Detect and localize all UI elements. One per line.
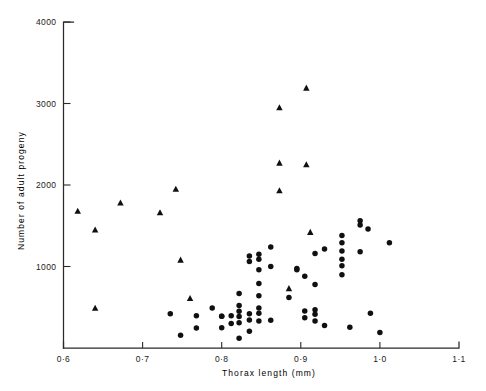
scatter-plot-figure: 10002000300040000·60·70·80·91·01·1 Numbe… (0, 0, 486, 391)
data-point-triangle (286, 285, 292, 291)
data-point-triangle (117, 200, 123, 206)
data-point-circle (209, 305, 215, 311)
data-point-circle (322, 246, 328, 252)
data-point-circle (339, 256, 345, 262)
data-point-triangle (303, 161, 309, 167)
data-point-circle (387, 240, 393, 246)
data-point-triangle (276, 187, 282, 193)
data-point-circle (236, 314, 242, 320)
data-point-circle (247, 311, 253, 317)
data-point-circle (219, 325, 225, 331)
data-point-circle (339, 233, 345, 239)
y-tick-label: 1000 (36, 262, 57, 272)
data-point-circle (247, 259, 253, 265)
data-point-triangle (92, 226, 98, 232)
data-point-circle (247, 253, 253, 259)
data-point-circle (294, 267, 300, 273)
data-point-circle (368, 311, 374, 317)
x-tick-label: 1·0 (373, 354, 387, 364)
data-point-circle (256, 281, 262, 287)
data-point-circle (194, 313, 200, 319)
y-tick-label: 3000 (36, 99, 57, 109)
data-point-circle (357, 249, 363, 255)
x-tick-label: 0·6 (57, 354, 71, 364)
data-point-triangle (187, 295, 193, 301)
data-point-triangle (92, 305, 98, 311)
data-point-circle (339, 248, 345, 254)
data-point-triangle (276, 104, 282, 110)
x-axis-spine (64, 342, 460, 348)
data-point-triangle (303, 85, 309, 91)
data-point-circle (256, 305, 262, 311)
x-tick-label: 0·9 (294, 354, 308, 364)
data-point-circle (256, 256, 262, 262)
x-tick-label: 1·1 (452, 354, 466, 364)
data-point-triangle (157, 209, 163, 215)
data-point-circle (236, 320, 242, 326)
data-point-circle (312, 282, 318, 288)
data-point-circle (256, 267, 262, 273)
data-point-circle (247, 317, 253, 323)
data-point-circle (312, 251, 318, 257)
data-point-circle (256, 311, 262, 317)
data-point-circle (312, 318, 318, 324)
data-point-circle (247, 329, 253, 335)
data-point-circle (236, 291, 242, 297)
data-point-circle (312, 311, 318, 317)
data-point-circle (322, 323, 328, 329)
data-point-circle (339, 240, 345, 246)
data-point-circle (178, 333, 184, 339)
data-point-circle (302, 274, 308, 280)
data-point-circle (228, 321, 234, 327)
data-point-circle (168, 311, 174, 317)
data-point-circle (194, 325, 200, 331)
y-tick-label: 4000 (36, 17, 57, 27)
data-point-circle (236, 303, 242, 309)
data-point-circle (377, 330, 383, 336)
data-point-circle (302, 315, 308, 321)
series-circle-group (168, 218, 393, 341)
data-point-circle (256, 318, 262, 324)
data-point-circle (339, 263, 345, 269)
data-point-circle (268, 244, 274, 250)
y-tick-label: 2000 (36, 180, 57, 190)
data-point-circle (347, 324, 353, 330)
series-triangle-group (75, 85, 314, 311)
data-point-circle (339, 272, 345, 278)
data-point-circle (228, 313, 234, 319)
data-point-triangle (173, 186, 179, 192)
data-point-circle (302, 308, 308, 314)
data-point-triangle (177, 257, 183, 263)
data-point-triangle (276, 160, 282, 166)
data-point-circle (286, 295, 292, 301)
data-point-triangle (307, 229, 313, 235)
data-point-circle (236, 309, 242, 315)
scatter-plot-canvas: 10002000300040000·60·70·80·91·01·1 (0, 0, 486, 391)
x-tick-label: 0·8 (215, 354, 229, 364)
data-point-circle (219, 313, 225, 319)
data-point-circle (365, 226, 371, 232)
data-point-circle (268, 318, 274, 324)
x-axis-title: Thorax length (mm) (222, 368, 316, 378)
data-point-circle (357, 222, 363, 228)
data-point-circle (256, 293, 262, 299)
data-point-circle (268, 264, 274, 270)
data-point-circle (236, 335, 242, 341)
data-point-circle (256, 252, 262, 258)
x-tick-label: 0·7 (136, 354, 150, 364)
data-point-triangle (75, 208, 81, 214)
y-axis-title: Number of adult progeny (16, 131, 26, 250)
